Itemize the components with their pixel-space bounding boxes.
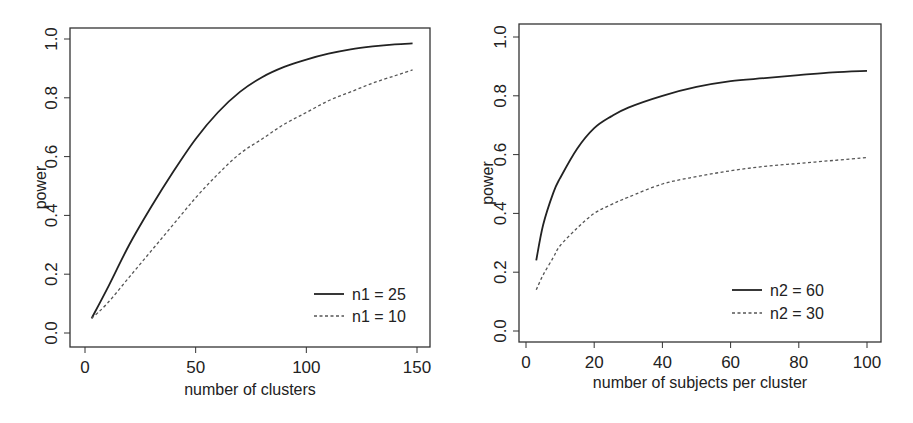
x-tick-label: 100 — [853, 353, 881, 372]
x-tick-label: 0 — [80, 358, 89, 377]
series-line-1 — [92, 43, 413, 318]
legend-label: n2 = 60 — [770, 282, 824, 299]
y-tick-label: 0.6 — [42, 145, 61, 169]
chart-panel-1: 0501001500.00.20.40.60.81.0number of clu… — [32, 27, 431, 398]
y-tick-label: 0.8 — [491, 84, 510, 108]
legend-label: n1 = 25 — [352, 286, 406, 303]
x-tick-label: 20 — [585, 353, 604, 372]
series-line-2 — [92, 70, 413, 318]
plot-frame — [519, 24, 881, 342]
y-tick-label: 0.8 — [42, 86, 61, 110]
x-axis-label: number of clusters — [184, 381, 316, 398]
y-tick-label: 0.0 — [491, 319, 510, 343]
series-line-2 — [536, 158, 867, 290]
x-tick-label: 80 — [789, 353, 808, 372]
y-tick-label: 0.2 — [491, 260, 510, 284]
y-axis-label: power — [479, 161, 496, 205]
chart-panel-2: 0204060801000.00.20.40.60.81.0number of … — [479, 24, 881, 391]
y-axis-label: power — [32, 165, 49, 209]
x-tick-label: 100 — [292, 358, 320, 377]
y-tick-label: 1.0 — [42, 27, 61, 51]
y-tick-label: 0.0 — [42, 321, 61, 345]
x-tick-label: 150 — [403, 358, 431, 377]
legend-label: n1 = 10 — [352, 308, 406, 325]
x-tick-label: 60 — [721, 353, 740, 372]
series-line-1 — [536, 71, 867, 261]
y-tick-label: 1.0 — [491, 25, 510, 49]
chart-canvas: 0501001500.00.20.40.60.81.0number of clu… — [0, 0, 913, 423]
legend-label: n2 = 30 — [770, 305, 824, 322]
x-tick-label: 0 — [521, 353, 530, 372]
x-tick-label: 40 — [653, 353, 672, 372]
x-axis-label: number of subjects per cluster — [593, 374, 808, 391]
x-tick-label: 50 — [186, 358, 205, 377]
y-tick-label: 0.2 — [42, 262, 61, 286]
